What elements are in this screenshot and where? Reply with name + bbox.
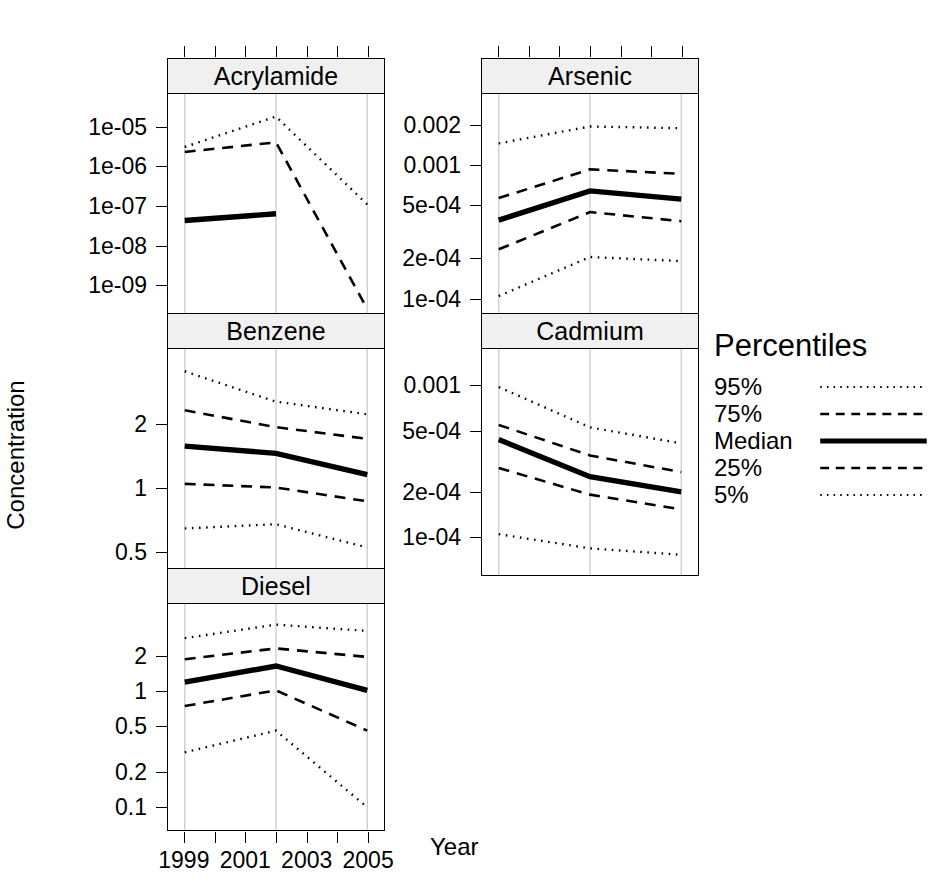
- legend-item-5pct: 5%: [714, 481, 929, 508]
- y-tick-mark: [156, 246, 167, 247]
- panel-title: Benzene: [226, 319, 325, 344]
- legend-item-key: [818, 488, 929, 502]
- y-tick-mark: [156, 691, 167, 692]
- y-tick-label: 2e-04: [361, 480, 461, 503]
- y-tick-mark: [470, 492, 481, 493]
- y-tick-label: 2e-04: [361, 247, 461, 270]
- y-tick-label: 1e-08: [47, 234, 147, 257]
- plot-box: [481, 348, 699, 576]
- y-tick-mark: [156, 772, 167, 773]
- x-tick-mark: [682, 46, 683, 57]
- legend: Percentiles 95%75%Median25%5%: [714, 330, 929, 508]
- y-tick-mark: [470, 258, 481, 259]
- y-tick-label: 1e-05: [47, 115, 147, 138]
- panel-strip-acrylamide: Acrylamide: [167, 58, 385, 94]
- legend-title: Percentiles: [714, 330, 929, 361]
- plot-area: [168, 94, 384, 320]
- y-tick-label: 0.001: [361, 153, 461, 176]
- plot-box: [481, 93, 699, 321]
- y-tick-label: 1e-04: [361, 526, 461, 549]
- plot-area: [168, 604, 384, 830]
- panel-strip-arsenic: Arsenic: [481, 58, 699, 94]
- y-tick-mark: [470, 537, 481, 538]
- y-tick-mark: [470, 205, 481, 206]
- x-tick-label: 2005: [343, 849, 394, 872]
- x-tick-mark: [184, 832, 185, 843]
- x-tick-mark: [307, 832, 308, 843]
- legend-item-label: 95%: [714, 375, 818, 399]
- y-tick-mark: [156, 127, 167, 128]
- x-tick-mark: [498, 46, 499, 57]
- legend-item-label: 25%: [714, 456, 818, 480]
- x-tick-mark: [276, 46, 277, 57]
- y-tick-mark: [156, 488, 167, 489]
- y-tick-label: 2: [47, 645, 147, 668]
- legend-item-75pct: 75%: [714, 400, 929, 427]
- legend-item-key: [818, 461, 929, 475]
- legend-item-key: [818, 434, 929, 448]
- chart-canvas: Concentration Year AcrylamideArsenicBenz…: [0, 0, 939, 882]
- x-tick-mark: [307, 46, 308, 57]
- plot-box: [167, 93, 385, 321]
- y-tick-label: 1e-06: [47, 155, 147, 178]
- legend-item-median: Median: [714, 427, 929, 454]
- y-tick-label: 1: [47, 680, 147, 703]
- x-tick-mark: [276, 832, 277, 843]
- y-tick-mark: [470, 165, 481, 166]
- x-tick-mark: [590, 46, 591, 57]
- y-tick-label: 1e-07: [47, 195, 147, 218]
- legend-item-key: [818, 380, 929, 394]
- y-tick-label: 0.001: [361, 374, 461, 397]
- y-tick-label: 1e-04: [361, 287, 461, 310]
- x-axis-title: Year: [430, 835, 479, 859]
- panel-title: Cadmium: [536, 319, 644, 344]
- x-tick-mark: [368, 46, 369, 57]
- x-tick-mark: [215, 832, 216, 843]
- y-tick-mark: [156, 656, 167, 657]
- y-tick-mark: [156, 726, 167, 727]
- y-tick-mark: [156, 424, 167, 425]
- y-tick-label: 0.5: [47, 540, 147, 563]
- panel-cadmium: Cadmium: [481, 313, 699, 576]
- y-tick-mark: [470, 431, 481, 432]
- plot-area: [168, 349, 384, 575]
- panel-strip-cadmium: Cadmium: [481, 313, 699, 349]
- y-tick-mark: [156, 206, 167, 207]
- x-tick-mark: [559, 46, 560, 57]
- y-axis-title: Concentration: [4, 380, 28, 529]
- y-tick-mark: [156, 807, 167, 808]
- x-tick-mark: [245, 832, 246, 843]
- y-tick-label: 5e-04: [361, 194, 461, 217]
- panel-title: Diesel: [241, 574, 311, 599]
- x-tick-mark: [651, 46, 652, 57]
- legend-item-label: Median: [714, 429, 818, 453]
- panel-strip-benzene: Benzene: [167, 313, 385, 349]
- panel-diesel: Diesel: [167, 568, 385, 831]
- panel-strip-diesel: Diesel: [167, 568, 385, 604]
- y-tick-label: 0.2: [47, 761, 147, 784]
- series-line-median: [185, 214, 276, 221]
- plot-area: [482, 94, 698, 320]
- panel-benzene: Benzene: [167, 313, 385, 576]
- legend-item-key: [818, 407, 929, 421]
- x-tick-mark: [368, 832, 369, 843]
- y-tick-label: 1: [47, 476, 147, 499]
- x-tick-mark: [337, 832, 338, 843]
- x-tick-mark: [621, 46, 622, 57]
- legend-item-label: 75%: [714, 402, 818, 426]
- y-tick-label: 0.5: [47, 715, 147, 738]
- x-tick-mark: [245, 46, 246, 57]
- panel-title: Arsenic: [548, 64, 632, 89]
- x-tick-label: 1999: [158, 849, 209, 872]
- panel-acrylamide: Acrylamide: [167, 58, 385, 321]
- plot-box: [167, 348, 385, 576]
- y-tick-mark: [470, 125, 481, 126]
- x-tick-mark: [529, 46, 530, 57]
- plot-area: [482, 349, 698, 575]
- panel-arsenic: Arsenic: [481, 58, 699, 321]
- y-tick-label: 5e-04: [361, 419, 461, 442]
- y-tick-label: 0.1: [47, 796, 147, 819]
- x-tick-label: 2001: [220, 849, 271, 872]
- legend-item-95pct: 95%: [714, 373, 929, 400]
- y-tick-label: 1e-09: [47, 274, 147, 297]
